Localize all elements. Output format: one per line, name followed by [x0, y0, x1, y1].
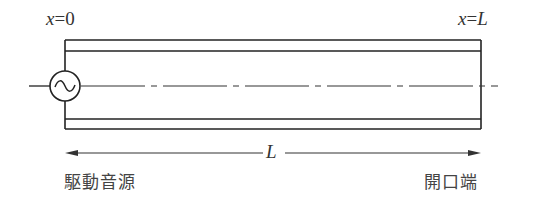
ac-source-icon [50, 71, 80, 101]
value-zero: 0 [65, 8, 75, 29]
label-length-L: L [266, 141, 277, 163]
label-x-equals-L: x=L [458, 8, 488, 30]
label-x-equals-0: x=0 [46, 8, 75, 30]
length-symbol: L [266, 141, 277, 162]
equals-sign: = [54, 8, 65, 29]
equals-sign: = [466, 8, 477, 29]
label-open-end: 開口端 [424, 168, 478, 193]
label-driving-source: 駆動音源 [64, 168, 136, 193]
value-L: L [477, 8, 488, 29]
